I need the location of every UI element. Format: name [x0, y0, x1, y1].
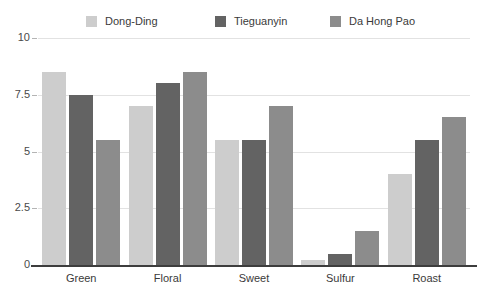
bar[interactable]	[215, 140, 239, 265]
bar[interactable]	[129, 106, 153, 265]
x-axis-tick-label: Sulfur	[297, 271, 383, 285]
x-axis-tick-label: Green	[38, 271, 124, 285]
y-axis-tick-labels: 02.557.510	[0, 38, 30, 265]
plot-area	[38, 38, 470, 265]
gridline	[38, 38, 470, 39]
y-axis-tick-mark	[32, 208, 37, 209]
legend-label: Tieguanyin	[234, 16, 287, 27]
bar[interactable]	[96, 140, 120, 265]
x-axis-tick-label: Sweet	[211, 271, 297, 285]
y-axis-tick-mark	[32, 95, 37, 96]
bar[interactable]	[69, 95, 93, 265]
legend-item[interactable]: Da Hong Pao	[330, 12, 415, 30]
chart-legend: Dong-DingTieguanyinDa Hong Pao	[0, 12, 486, 30]
bar[interactable]	[388, 174, 412, 265]
bar[interactable]	[442, 117, 466, 265]
x-axis-line	[31, 265, 477, 267]
legend-label: Dong-Ding	[105, 16, 158, 27]
x-axis-tick-label: Floral	[124, 271, 210, 285]
gridline	[38, 95, 470, 96]
bar[interactable]	[156, 83, 180, 265]
bar[interactable]	[328, 254, 352, 265]
y-axis-tick-label: 2.5	[15, 202, 30, 213]
x-axis-tick-labels: GreenFloralSweetSulfurRoast	[38, 271, 470, 287]
y-axis-tick-mark	[32, 152, 37, 153]
y-axis-tick-label: 0	[24, 259, 30, 270]
legend-swatch-icon	[215, 16, 226, 27]
y-axis-tick-label: 10	[18, 32, 30, 43]
legend-swatch-icon	[330, 16, 341, 27]
bar[interactable]	[42, 72, 66, 265]
y-axis-tick-label: 7.5	[15, 89, 30, 100]
legend-item[interactable]: Tieguanyin	[215, 12, 287, 30]
legend-swatch-icon	[86, 16, 97, 27]
bar[interactable]	[415, 140, 439, 265]
y-axis-tick-label: 5	[24, 146, 30, 157]
bar[interactable]	[355, 231, 379, 265]
x-axis-tick-label: Roast	[384, 271, 470, 285]
bar[interactable]	[269, 106, 293, 265]
y-axis-tick-mark	[32, 38, 37, 39]
bar-chart: Dong-DingTieguanyinDa Hong Pao 02.557.51…	[0, 0, 486, 295]
bar[interactable]	[242, 140, 266, 265]
legend-label: Da Hong Pao	[349, 16, 415, 27]
bar[interactable]	[183, 72, 207, 265]
legend-item[interactable]: Dong-Ding	[86, 12, 158, 30]
